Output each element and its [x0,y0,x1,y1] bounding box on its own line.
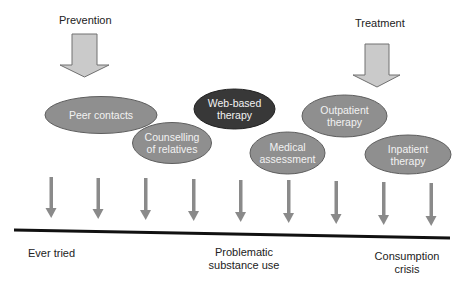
outpatient-line-2: therapy [327,116,362,129]
down-arrow-icon [426,183,437,226]
intervention-label-outpatient-therapy: Outpatient therapy [302,103,387,129]
down-arrow-icon [283,180,294,223]
web-line-2: therapy [217,109,252,122]
prevention-label: Prevention [59,14,112,27]
stage-label-problematic-substance-use: Problematic substance use [199,246,289,272]
down-arrow-icon [93,178,104,219]
stage-label-consumption-crisis: Consumption crisis [372,250,442,276]
timeline-arrows [46,177,437,226]
intervention-label-counselling-of-relatives: Counselling of relatives [132,130,212,156]
inpatient-line-2: therapy [390,155,425,168]
intervention-label-peer-contacts: Peer contacts [45,106,157,124]
down-arrow-icon [331,181,342,224]
down-arrow-icon [46,177,57,218]
medical-line-1: Medical [269,141,305,154]
stage-label-ever-tried: Ever tried [28,247,75,260]
counselling-line-1: Counselling [145,131,200,144]
down-arrow-icon [235,180,246,222]
down-arrow-icon [378,182,389,225]
problematic-line-2: substance use [199,259,289,272]
treatment-arrow-icon [353,44,400,87]
problematic-line-1: Problematic [199,246,289,259]
outpatient-line-1: Outpatient [320,104,368,117]
intervention-label-web-based-therapy: Web-based therapy [194,96,275,122]
consumption-line-1: Consumption [372,250,442,263]
intervention-label-medical-assessment: Medical assessment [250,140,325,166]
intervention-label-inpatient-therapy: Inpatient therapy [365,142,451,168]
timeline-baseline [14,230,450,238]
counselling-line-2: of relatives [147,143,198,156]
medical-line-2: assessment [259,153,315,166]
prevention-arrow-icon [60,34,109,77]
down-arrow-icon [188,179,199,221]
consumption-line-2: crisis [372,263,442,276]
web-line-1: Web-based [208,97,262,110]
treatment-label: Treatment [355,17,405,30]
inpatient-line-1: Inpatient [388,143,428,156]
down-arrow-icon [140,178,151,220]
diagram-canvas [0,0,465,281]
